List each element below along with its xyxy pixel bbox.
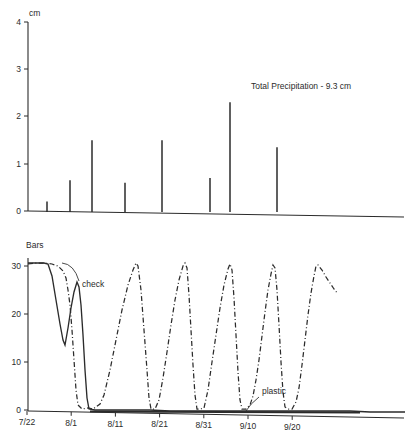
plastic-leader-line <box>246 397 259 411</box>
precip-bar-group <box>47 102 277 212</box>
tension-chart: Bars 30 20 10 0 7/228/18/118/218/319/109… <box>12 240 405 432</box>
precip-ytick-3: 3 <box>16 64 21 74</box>
precip-y-axis-label: cm <box>29 8 40 18</box>
tension-x-tick-group: 7/228/18/118/218/319/109/20 <box>19 411 301 432</box>
tension-ytick-30: 30 <box>12 261 22 271</box>
figure-svg: cm 4 3 2 1 0 Total Precipitation - 9.3 <box>0 0 410 439</box>
tension-x-tick-label: 8/21 <box>151 419 168 429</box>
tension-ytick-10: 10 <box>12 357 22 367</box>
figure-root: cm 4 3 2 1 0 Total Precipitation - 9.3 <box>0 0 410 439</box>
tension-x-tick-label: 8/11 <box>107 419 123 429</box>
total-precipitation-annotation: Total Precipitation - 9.3 cm <box>251 81 351 91</box>
tension-x-tick-label: 7/22 <box>19 417 36 427</box>
check-leader-line <box>62 263 79 281</box>
tension-x-tick-label: 9/10 <box>240 421 257 431</box>
precip-y-ticks: 4 3 2 1 0 <box>16 17 28 216</box>
check-annotation: check <box>82 279 105 289</box>
plastic-baseline-accent <box>90 412 360 413</box>
tension-x-tick-label: 8/31 <box>196 420 213 430</box>
tension-y-axis-label: Bars <box>26 240 43 250</box>
precip-ytick-2: 2 <box>16 111 21 121</box>
tension-ytick-20: 20 <box>12 309 22 319</box>
plastic-annotation: plastic <box>262 386 287 396</box>
precip-x-axis <box>28 211 404 217</box>
tension-ytick-0: 0 <box>16 405 21 415</box>
tension-x-tick-label: 8/1 <box>65 418 77 428</box>
precip-ytick-4: 4 <box>16 17 21 27</box>
series-check-line <box>28 263 338 409</box>
precip-ytick-1: 1 <box>16 159 21 169</box>
precipitation-chart: cm 4 3 2 1 0 Total Precipitation - 9.3 <box>16 8 404 217</box>
tension-x-tick-label: 9/20 <box>284 422 301 432</box>
precip-ytick-0: 0 <box>16 206 21 216</box>
tension-y-ticks: 30 20 10 0 <box>12 261 28 415</box>
